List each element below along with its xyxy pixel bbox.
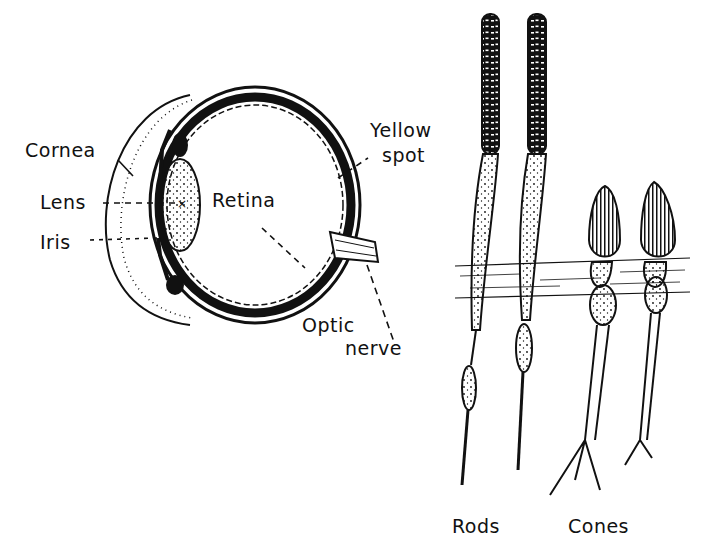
svg-text:×: × (177, 197, 187, 211)
cone-cell-1 (550, 186, 620, 495)
label-retina: Retina (212, 190, 275, 210)
label-rods: Rods (452, 516, 500, 536)
label-lens: Lens (40, 192, 86, 212)
retina-cells (455, 14, 690, 495)
rod-cell-2 (516, 14, 546, 470)
diagram-canvas: × (0, 0, 707, 552)
label-optic-nerve-line2: nerve (345, 338, 402, 358)
label-yellow-spot-line2: spot (382, 145, 425, 165)
cone-cell-2 (625, 182, 675, 465)
label-yellow-spot-line1: Yellow (370, 120, 432, 140)
rod-cell-1 (462, 14, 499, 485)
label-cones: Cones (568, 516, 629, 536)
eye-cross-section: × (90, 87, 395, 345)
label-cornea: Cornea (25, 140, 96, 160)
label-optic-nerve-line1: Optic (302, 315, 355, 335)
label-iris: Iris (40, 232, 71, 252)
